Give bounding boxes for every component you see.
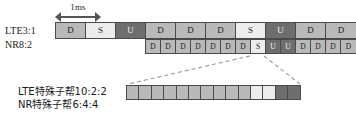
lte-subframe-cell: D [206, 23, 236, 38]
symbol-cell [177, 86, 189, 99]
nr-subframe-cell: U [266, 40, 281, 53]
caption-line-lte: LTE特殊子帮10:2:2 [18, 85, 107, 98]
lte-subframe-row: DSUDDDSUDD [55, 22, 356, 39]
symbol-cell [251, 86, 263, 99]
symbol-cell [201, 86, 213, 99]
nr-subframe-row: DDDDDDDSUUDDDD [145, 39, 356, 54]
lte-subframe-cell: D [176, 23, 206, 38]
lte-subframe-cell: D [296, 23, 326, 38]
lte-subframe-cell: U [266, 23, 296, 38]
lte-subframe-cell: S [236, 23, 266, 38]
nr-subframe-cell: D [236, 40, 251, 53]
symbol-cell [263, 86, 275, 99]
symbol-cell [276, 86, 288, 99]
measure-label: 1ms [55, 2, 101, 12]
nr-subframe-cell: D [176, 40, 191, 53]
lte-subframe-cell: U [116, 23, 146, 38]
lte-row-label: LTE3:1 [5, 25, 36, 36]
arrow-left-icon [55, 12, 61, 22]
nr-subframe-cell: D [221, 40, 236, 53]
measure-line [59, 16, 97, 18]
nr-subframe-cell: U [281, 40, 296, 53]
lte-subframe-cell: D [326, 23, 356, 38]
nr-subframe-cell: D [161, 40, 176, 53]
symbol-cell [214, 86, 226, 99]
nr-subframe-cell: D [146, 40, 161, 53]
nr-subframe-cell: D [326, 40, 341, 53]
symbol-cell [239, 86, 251, 99]
lte-subframe-cell: D [56, 23, 86, 38]
nr-subframe-cell: D [191, 40, 206, 53]
one-ms-measure: 1ms [55, 2, 101, 22]
tdd-frame-structure-diagram: 1ms LTE3:1 NR8:2 DSUDDDSUDD DDDDDDDSUUDD… [0, 0, 356, 119]
symbol-cell [164, 86, 176, 99]
nr-subframe-cell: D [341, 40, 356, 53]
arrow-right-icon [95, 12, 101, 22]
special-subframe-caption: LTE特殊子帮10:2:2 NR特殊子帮6:4:4 [18, 85, 107, 111]
lte-subframe-cell: D [146, 23, 176, 38]
nr-row-label: NR8:2 [5, 39, 32, 50]
special-subframe-symbol-row [126, 85, 301, 100]
symbol-cell [127, 86, 139, 99]
nr-subframe-cell: D [206, 40, 221, 53]
symbol-cell [288, 86, 300, 99]
nr-subframe-cell: D [311, 40, 326, 53]
caption-line-nr: NR特殊子帮6:4:4 [18, 98, 107, 111]
symbol-cell [226, 86, 238, 99]
lte-subframe-cell: S [86, 23, 116, 38]
nr-subframe-cell: D [296, 40, 311, 53]
nr-subframe-cell: S [251, 40, 266, 53]
symbol-cell [189, 86, 201, 99]
symbol-cell [152, 86, 164, 99]
symbol-cell [139, 86, 151, 99]
